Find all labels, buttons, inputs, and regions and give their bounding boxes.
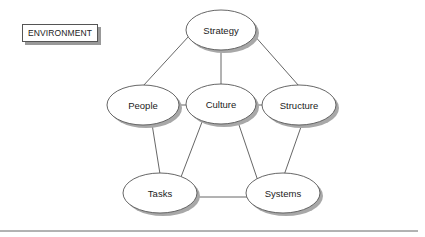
node-tasks: Tasks xyxy=(123,173,197,213)
environment-label-box: ENVIRONMENT xyxy=(22,24,98,42)
node-label-tasks: Tasks xyxy=(148,188,173,199)
node-culture: Culture xyxy=(186,84,256,124)
node-systems: Systems xyxy=(246,173,320,213)
edge-strategy-people xyxy=(143,36,189,86)
edge-people-tasks xyxy=(152,124,160,174)
edge-structure-systems xyxy=(283,124,302,178)
node-label-structure: Structure xyxy=(280,100,319,111)
node-label-systems: Systems xyxy=(265,188,302,199)
node-label-strategy: Strategy xyxy=(203,25,239,36)
node-structure: Structure xyxy=(262,85,336,125)
node-strategy: Strategy xyxy=(186,10,256,50)
environment-label: ENVIRONMENT xyxy=(28,28,92,38)
edge-culture-tasks xyxy=(181,122,202,177)
node-label-people: People xyxy=(128,100,158,111)
edge-culture-systems xyxy=(238,122,258,181)
node-label-culture: Culture xyxy=(206,99,237,110)
edge-strategy-structure xyxy=(253,34,299,86)
node-people: People xyxy=(107,85,179,125)
